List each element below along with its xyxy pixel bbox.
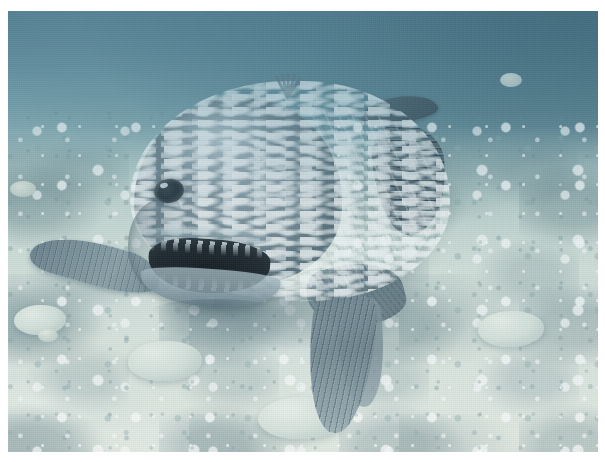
screenshot-root: Large blue-grey lobe-finned fish facing …	[0, 0, 605, 462]
photograph	[8, 11, 598, 452]
water-color-cast	[8, 11, 598, 452]
